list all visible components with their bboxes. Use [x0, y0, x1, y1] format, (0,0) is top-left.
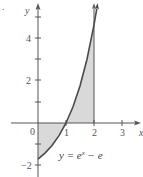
x-axis-label: x	[138, 127, 143, 138]
y-tick-label-neg2: −2	[21, 160, 32, 171]
shaded-region-above	[66, 25, 94, 123]
x-tick-label-2: 2	[92, 127, 97, 138]
function-label-lhs: y = e	[58, 149, 82, 161]
origin-label: 0	[30, 126, 35, 137]
x-tick-label-3: 3	[120, 127, 125, 138]
y-tick-label-4: 4	[26, 33, 31, 44]
function-label-rhs: − e	[85, 149, 103, 161]
y-tick-label-2: 2	[26, 75, 31, 86]
area-under-curve-plot: . y x 4 2 −2 0 1 2 3 y = ex − e	[0, 0, 143, 177]
exercise-marker: .	[2, 1, 5, 12]
y-axis-label: y	[24, 5, 30, 16]
function-label: y = ex − e	[58, 149, 103, 161]
x-tick-label-1: 1	[64, 127, 69, 138]
